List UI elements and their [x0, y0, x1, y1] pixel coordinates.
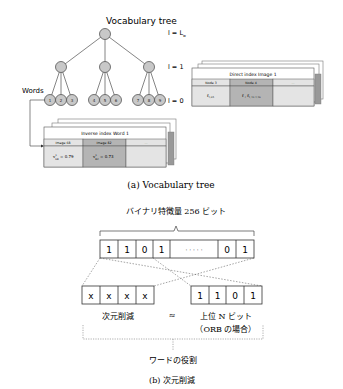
direct-index-title: Direct index Image 1	[229, 72, 276, 77]
leaf-label: 2	[60, 98, 63, 103]
inverse-index-table: Inverse index Word 1 Image 68 Image 82 .…	[44, 119, 176, 167]
root-node	[100, 29, 111, 40]
bit: x	[124, 291, 130, 301]
leaf-label: 6	[115, 98, 118, 103]
leaf-label: 4	[93, 98, 96, 103]
inverse-index-title: Inverse index Word 1	[81, 131, 129, 136]
bit: 1	[197, 291, 203, 301]
orb-case-label: （ORB の場合）	[195, 324, 256, 334]
tree-node	[56, 62, 67, 73]
direct-header: ...	[291, 81, 294, 85]
leaf-label: 7	[137, 98, 140, 103]
bit: 1	[250, 291, 256, 301]
caption-a: (a) Vocabulary tree	[127, 180, 214, 190]
inverse-header: Image 68	[55, 141, 70, 145]
bit: 1	[242, 245, 248, 255]
direct-header: Node 3	[205, 81, 216, 85]
bit: x	[106, 291, 112, 301]
level-label-top: l = Lw	[168, 29, 186, 38]
dimension-reduction-diagram: バイナリ特徴量 256 ビット 1 1 0 1 · · · · · 0 1	[82, 206, 263, 385]
tree-node	[100, 62, 111, 73]
tree-node	[144, 62, 155, 73]
bit-ellipsis: · · · · ·	[185, 246, 202, 253]
direct-index-table: Direct index Image 1 Node 3 Node 4 ... f…	[192, 61, 323, 106]
leaf-label: 3	[71, 98, 74, 103]
tree-title: Vocabulary tree	[106, 16, 177, 26]
bit: 1	[106, 245, 112, 255]
top-n-bits-label: 上位 N ビット	[200, 311, 252, 321]
bit: x	[88, 291, 94, 301]
leaf-label: 8	[148, 98, 151, 103]
bit-array	[100, 240, 254, 258]
dimension-reduction-label: 次元削減	[102, 311, 134, 321]
approx-symbol: ≈	[169, 311, 176, 320]
caption-b: (b) 次元削減	[149, 375, 195, 385]
bit: 0	[142, 245, 148, 255]
brace-icon	[100, 226, 254, 236]
bit: 0	[224, 245, 230, 255]
leaf-label: 9	[159, 98, 162, 103]
figure: Vocabulary tree 1 2	[0, 0, 343, 389]
leaf-label: 1	[49, 98, 52, 103]
bit: 1	[124, 245, 130, 255]
leaf-label: 5	[104, 98, 107, 103]
inverse-header: ...	[144, 141, 147, 145]
bit: 1	[159, 245, 165, 255]
bit: 0	[232, 291, 238, 301]
inverse-header: Image 82	[96, 141, 111, 145]
arrow-head-icon	[41, 145, 44, 148]
words-connector	[30, 100, 45, 146]
binary-feature-label: バイナリ特徴量 256 ビット	[126, 206, 226, 216]
direct-header: Node 4	[245, 81, 256, 85]
word-role-label: ワードの役割	[149, 355, 197, 365]
words-label: Words	[22, 87, 44, 95]
bit: x	[142, 291, 148, 301]
level-label-mid: l = 1	[168, 63, 184, 71]
level-label-bottom: l = 0	[168, 97, 184, 105]
bit: 1	[215, 291, 221, 301]
